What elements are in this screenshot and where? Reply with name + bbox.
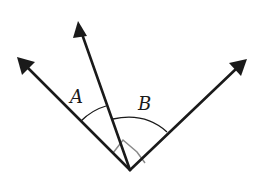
- middle-ray-arrowhead-icon: [73, 21, 87, 38]
- angle-a-label: A: [68, 86, 83, 107]
- angle-b-arc: [113, 117, 167, 132]
- middle-ray: [82, 34, 130, 170]
- right-ray: [130, 68, 237, 170]
- angle-b-label: B: [137, 93, 151, 114]
- angle-diagram: A B: [0, 0, 264, 182]
- left-ray: [26, 66, 130, 170]
- angle-a-arc: [81, 106, 106, 121]
